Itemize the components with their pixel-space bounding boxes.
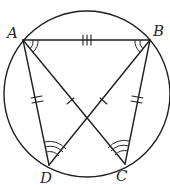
label-a: A [5,24,18,42]
label-b: B [152,22,164,40]
diagonal-bd [49,40,150,165]
tick-marks-bc [131,96,143,103]
label-d: D [39,169,52,185]
label-c: C [116,167,128,185]
tick-marks-ad [31,96,43,103]
geometry-diagram: A B D C [0,0,170,185]
